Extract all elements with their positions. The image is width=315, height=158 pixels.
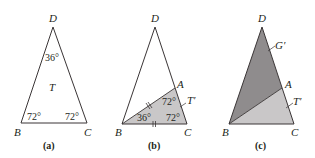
vertex-label-a: A bbox=[176, 78, 184, 90]
angle-left: 36° bbox=[137, 112, 151, 123]
vertex-label-b: B bbox=[115, 126, 122, 138]
vertex-label-b: B bbox=[14, 126, 21, 138]
panel-a: D B C 36° 72° 72° T (a) bbox=[14, 12, 92, 152]
panel-b: D A B C 72° 36° 72° T′ (b) bbox=[115, 12, 196, 152]
region-label-t-prime: T′ bbox=[293, 95, 302, 107]
vertex-label-d: D bbox=[150, 12, 159, 24]
vertex-label-c: C bbox=[184, 126, 192, 138]
vertex-label-d: D bbox=[257, 12, 266, 24]
golden-triangle-figure: D B C 36° 72° 72° T (a) D A B C 72° 36° … bbox=[0, 0, 315, 158]
caption-a: (a) bbox=[43, 140, 55, 152]
angle-left: 72° bbox=[27, 111, 41, 122]
vertex-label-d: D bbox=[48, 12, 57, 24]
triangle-dbc bbox=[21, 27, 87, 123]
region-label-t-prime: T′ bbox=[187, 94, 196, 106]
angle-top: 72° bbox=[162, 96, 176, 107]
vertex-label-c: C bbox=[84, 126, 92, 138]
region-label-t: T bbox=[49, 81, 56, 93]
region-label-g-prime: G′ bbox=[275, 39, 286, 51]
angle-apex: 36° bbox=[45, 52, 59, 63]
caption-b: (b) bbox=[148, 140, 160, 152]
vertex-label-a: A bbox=[284, 78, 292, 90]
vertex-label-c: C bbox=[291, 126, 299, 138]
angle-right: 72° bbox=[166, 112, 180, 123]
angle-right: 72° bbox=[65, 111, 79, 122]
vertex-label-b: B bbox=[222, 126, 229, 138]
caption-c: (c) bbox=[255, 140, 266, 152]
panel-c: D A B C G′ T′ (c) bbox=[222, 12, 302, 152]
